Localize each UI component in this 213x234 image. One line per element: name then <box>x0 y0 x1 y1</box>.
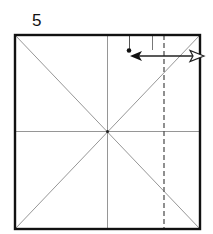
reference-dot <box>127 48 132 53</box>
center-point <box>106 130 109 133</box>
fold-arrow <box>130 51 204 62</box>
fold-diagram <box>0 0 213 234</box>
